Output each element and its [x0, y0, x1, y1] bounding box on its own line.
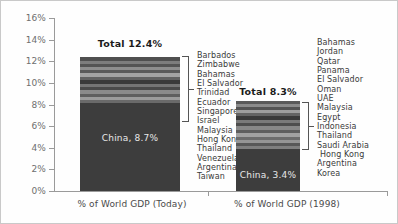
bracket-1998	[302, 102, 315, 150]
country-item: El Salvador	[317, 75, 369, 84]
country-item: Korea	[317, 169, 369, 178]
y-tick-14	[49, 40, 55, 41]
y-tick-label-0: 0%	[32, 186, 46, 196]
country-item: Bahamas	[317, 38, 369, 47]
x-tick-divider	[208, 191, 209, 196]
country-item: Qatar	[317, 57, 369, 66]
bar-today-segment-china	[80, 103, 180, 191]
country-item: Argentina	[317, 159, 369, 168]
y-tick-10	[49, 83, 55, 84]
y-tick-label-10: 10%	[26, 78, 46, 88]
y-tick-label-8: 8%	[32, 100, 46, 110]
country-item: Hong Kong	[317, 150, 369, 159]
bar-today-china-label: China, 8.7%	[88, 133, 172, 143]
country-item: Saudi Arabia	[317, 141, 369, 150]
y-tick-12	[49, 61, 55, 62]
frame-bottom-edge	[0, 223, 398, 224]
y-tick-16	[49, 18, 55, 19]
x-axis-line	[54, 191, 388, 192]
chart-container: 16% 14% 12% 10% 8% 6% 4% 2% 0% Total 12.…	[0, 0, 398, 224]
y-tick-label-2: 2%	[32, 164, 46, 174]
bar-today[interactable]	[80, 57, 180, 191]
frame-left-edge	[0, 0, 1, 224]
country-item: Thailand	[317, 131, 369, 140]
country-item: Oman	[317, 85, 369, 94]
bar-today-total-label: Total 12.4%	[88, 38, 172, 49]
y-tick-label-4: 4%	[32, 143, 46, 153]
frame-top-edge	[0, 0, 398, 1]
y-tick-label-16: 16%	[26, 13, 46, 23]
y-tick-label-6: 6%	[32, 121, 46, 131]
country-item: Bahamas	[197, 70, 243, 79]
country-item: Jordan	[317, 47, 369, 56]
y-tick-2	[49, 169, 55, 170]
country-item: Panama	[317, 66, 369, 75]
bracket-today	[182, 56, 195, 122]
country-item: Barbados	[197, 51, 243, 60]
y-tick-6	[49, 126, 55, 127]
y-tick-label-14: 14%	[26, 35, 46, 45]
bar-1998-total-label: Total 8.3%	[232, 86, 304, 97]
country-item: Zimbabwe	[197, 60, 243, 69]
country-item: Egypt	[317, 113, 369, 122]
y-tick-8	[49, 105, 55, 106]
country-list-1998: Bahamas Jordan Qatar Panama El Salvador …	[317, 38, 369, 178]
x-axis-label-1998: % of World GDP (1998)	[212, 199, 362, 209]
y-tick-label-12: 12%	[26, 56, 46, 66]
y-tick-4	[49, 148, 55, 149]
bar-1998-china-label: China, 3.4%	[232, 170, 304, 180]
country-item: Indonesia	[317, 122, 369, 131]
x-axis-label-today: % of World GDP (Today)	[58, 199, 206, 209]
country-item: Malaysia	[317, 103, 369, 112]
country-item: UAE	[317, 94, 369, 103]
x-tick-right-end	[387, 191, 388, 196]
